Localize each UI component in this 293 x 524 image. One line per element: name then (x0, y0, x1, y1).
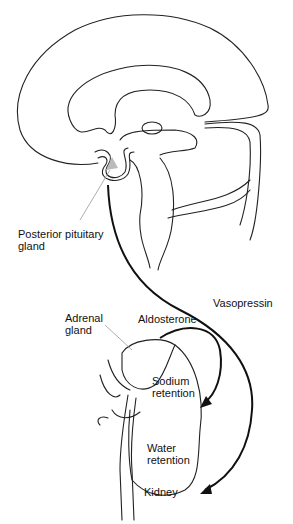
kidney-shape (129, 345, 202, 495)
adrenal-leader-line (105, 325, 132, 350)
posterior-pituitary-shading (106, 157, 118, 170)
vasopressin-arrowhead (200, 484, 212, 494)
pituitary-leader-line (80, 170, 110, 220)
label-posterior-pituitary: Posterior pituitary gland (18, 228, 104, 252)
label-vasopressin: Vasopressin (213, 297, 273, 309)
label-adrenal-gland: Adrenal gland (65, 312, 103, 336)
pituitary-region (80, 148, 134, 220)
label-kidney: Kidney (144, 486, 178, 498)
diagram-canvas: Posterior pituitary gland Vasopressin Ad… (0, 0, 293, 524)
label-water-retention: Water retention (147, 442, 190, 466)
label-sodium-retention: Sodium retention (152, 375, 195, 399)
label-aldosterone: Aldosterone (138, 313, 197, 325)
